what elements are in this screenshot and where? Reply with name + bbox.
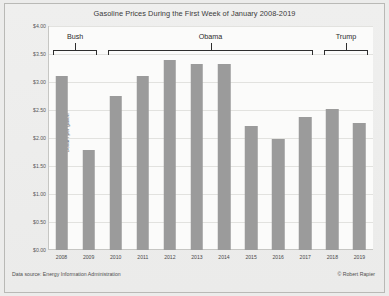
bar-2013 [191, 64, 204, 250]
bracket-stem [75, 43, 76, 50]
annotation-label-obama: Obama [199, 32, 223, 41]
chart-figure: Gasoline Prices During the First Week of… [0, 0, 389, 296]
bar-2015 [245, 126, 258, 250]
bar-series [48, 26, 373, 250]
y-axis-tick-label: $3.50 [22, 51, 46, 57]
y-axis-tick-label: $3.00 [22, 79, 46, 85]
bar-slot [129, 26, 156, 250]
bar-2012 [164, 60, 177, 250]
bar-slot [292, 26, 319, 250]
bar-slot [319, 26, 346, 250]
bracket-obama [108, 50, 314, 55]
bracket-trump [324, 50, 367, 55]
chart-title: Gasoline Prices During the First Week of… [0, 9, 389, 18]
bar-2011 [137, 76, 150, 250]
y-axis-tick-label: $2.00 [22, 135, 46, 141]
bar-2016 [272, 139, 285, 250]
bracket-stem [346, 43, 347, 50]
bar-2009 [82, 150, 95, 250]
y-axis-tick-label: $0.00 [22, 247, 46, 253]
bar-slot [183, 26, 210, 250]
bar-slot [211, 26, 238, 250]
bar-slot [75, 26, 102, 250]
bar-2014 [218, 64, 231, 250]
bar-slot [156, 26, 183, 250]
bar-slot [102, 26, 129, 250]
source-note: Data source: Energy Information Administ… [12, 271, 121, 277]
bar-slot [238, 26, 265, 250]
bracket-stem [211, 43, 212, 50]
y-axis-tick-label: $1.50 [22, 163, 46, 169]
y-axis-tick-label: $4.00 [22, 23, 46, 29]
bar-2019 [353, 123, 366, 250]
credit-note: © Robert Rapier [337, 271, 375, 277]
bar-2017 [299, 117, 312, 250]
bar-2018 [326, 109, 339, 250]
annotation-label-bush: Bush [67, 32, 83, 41]
y-axis-tick-label: $1.00 [22, 191, 46, 197]
bar-slot [48, 26, 75, 250]
y-axis-tick-label: $2.50 [22, 107, 46, 113]
y-axis-tick-label: $0.50 [22, 219, 46, 225]
bar-2008 [55, 76, 68, 250]
bar-slot [346, 26, 373, 250]
annotation-label-trump: Trump [336, 32, 357, 41]
x-axis-tick-label: 2019 [342, 254, 376, 260]
bar-slot [265, 26, 292, 250]
bracket-bush [53, 50, 96, 55]
bar-2010 [109, 96, 122, 250]
